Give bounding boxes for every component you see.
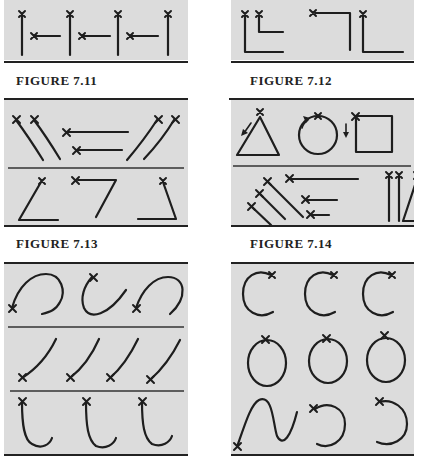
circle-shape xyxy=(299,113,337,154)
figure-7-12-caption: FIGURE 7.12 xyxy=(250,73,332,89)
horizontal-leftstroke xyxy=(307,211,329,218)
vertical-upstroke xyxy=(19,11,25,55)
figure-7-14-drawing xyxy=(231,100,414,225)
reversed-c-stroke xyxy=(376,398,407,444)
triangle-shape xyxy=(237,109,279,155)
figure-7-12-drawing xyxy=(231,0,414,60)
reversed-c-stroke xyxy=(310,405,345,446)
arch-stroke xyxy=(9,274,63,314)
oval-shape xyxy=(248,336,286,386)
figure-7-16-panel xyxy=(231,264,414,454)
figure-7-13-drawing xyxy=(4,100,188,225)
vertical-upstroke xyxy=(115,11,121,55)
figure-7-14-rule xyxy=(231,225,414,227)
u-curve-stroke xyxy=(82,274,126,314)
figure-7-15-rule xyxy=(4,454,188,456)
c-shape-stroke xyxy=(305,272,337,315)
c-shape-stroke xyxy=(363,272,395,315)
inverted-l-stroke xyxy=(310,10,350,50)
curved-upstroke xyxy=(127,116,162,160)
vertical-upstroke xyxy=(165,11,171,55)
horizontal-leftstroke xyxy=(286,175,358,182)
angled-corner-stroke xyxy=(19,178,58,220)
angled-corner-stroke xyxy=(403,172,414,221)
oval-shape xyxy=(367,332,405,382)
curved-downstroke xyxy=(19,339,56,381)
horizontal-leftstroke xyxy=(79,33,110,39)
figure-7-15-panel xyxy=(4,264,188,454)
figure-7-13-caption: FIGURE 7.13 xyxy=(16,236,98,252)
square-shape xyxy=(343,113,392,152)
curved-downstroke xyxy=(147,340,180,383)
figure-7-13-panel xyxy=(4,100,188,225)
figure-7-11-drawing xyxy=(4,0,188,60)
figure-7-11-panel xyxy=(4,0,188,60)
horizontal-leftstroke xyxy=(127,33,158,39)
z-shaped-stroke xyxy=(72,177,116,217)
vertical-upstroke xyxy=(396,172,402,221)
diagonal-downstroke xyxy=(248,203,271,225)
figure-7-11-rule xyxy=(4,61,188,63)
arch-stroke xyxy=(133,277,183,314)
figure-7-14-caption: FIGURE 7.14 xyxy=(250,236,332,252)
c-shape-stroke xyxy=(243,272,275,315)
s-curve-stroke xyxy=(234,399,297,450)
hook-stroke xyxy=(19,398,52,446)
figure-7-12-panel xyxy=(231,0,414,60)
curved-downstroke xyxy=(67,339,99,381)
vertical-upstroke xyxy=(386,172,392,221)
vertical-upstroke xyxy=(67,11,73,55)
diagonal-downstroke xyxy=(264,178,303,217)
small-l-stroke xyxy=(256,11,283,32)
figure-7-16-drawing xyxy=(231,264,414,454)
figure-7-13-rule xyxy=(4,225,188,227)
curved-downstroke xyxy=(31,116,60,159)
curved-downstroke xyxy=(107,339,138,381)
hook-stroke xyxy=(139,398,172,445)
hook-stroke xyxy=(83,398,116,447)
horizontal-leftstroke xyxy=(63,129,128,136)
reversed-corner-stroke xyxy=(138,178,176,219)
figure-7-15-drawing xyxy=(4,264,188,454)
figure-7-14-panel xyxy=(231,100,414,225)
horizontal-leftstroke xyxy=(73,147,122,154)
figure-7-12-rule xyxy=(231,61,414,63)
horizontal-leftstroke xyxy=(31,33,60,39)
l-stroke xyxy=(360,11,403,52)
figure-7-16-rule xyxy=(231,454,414,456)
horizontal-leftstroke xyxy=(302,196,337,203)
figure-7-11-caption: FIGURE 7.11 xyxy=(16,73,97,89)
oval-shape xyxy=(309,335,347,383)
